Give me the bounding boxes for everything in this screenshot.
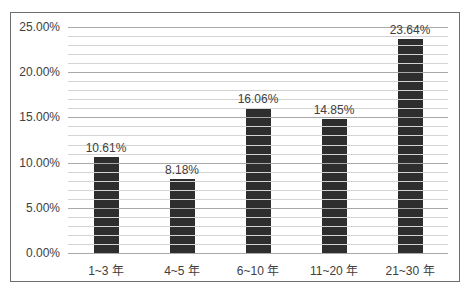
- minor-gridline: [68, 45, 448, 46]
- major-gridline: [68, 253, 448, 254]
- value-label: 8.18%: [165, 163, 199, 177]
- bar: [322, 119, 347, 253]
- minor-gridline: [68, 126, 448, 127]
- minor-gridline: [68, 244, 448, 245]
- major-gridline: [68, 72, 448, 73]
- y-tick-label: 5.00%: [14, 201, 60, 215]
- value-label: 10.61%: [86, 141, 127, 155]
- x-tick-label: 11~20 年: [310, 261, 358, 278]
- y-tick-label: 0.00%: [14, 246, 60, 260]
- major-gridline: [68, 163, 448, 164]
- minor-gridline: [68, 81, 448, 82]
- minor-gridline: [68, 226, 448, 227]
- minor-gridline: [68, 63, 448, 64]
- major-gridline: [68, 117, 448, 118]
- y-tick-label: 10.00%: [14, 156, 60, 170]
- minor-gridline: [68, 217, 448, 218]
- value-label: 16.06%: [238, 92, 279, 106]
- plot-area: 10.61%8.18%16.06%14.85%23.64%: [68, 27, 448, 253]
- y-tick-label: 25.00%: [14, 20, 60, 34]
- minor-gridline: [68, 235, 448, 236]
- x-tick-label: 21~30 年: [385, 261, 434, 278]
- minor-gridline: [68, 108, 448, 109]
- x-tick-label: 1~3 年: [88, 261, 124, 278]
- x-tick-label: 6~10 年: [237, 261, 279, 278]
- value-label: 14.85%: [314, 103, 355, 117]
- minor-gridline: [68, 199, 448, 200]
- y-tick-label: 20.00%: [14, 65, 60, 79]
- x-tick-label: 4~5 年: [164, 261, 200, 278]
- y-tick-label: 15.00%: [14, 110, 60, 124]
- minor-gridline: [68, 135, 448, 136]
- value-label: 23.64%: [390, 23, 431, 37]
- minor-gridline: [68, 190, 448, 191]
- minor-gridline: [68, 172, 448, 173]
- major-gridline: [68, 208, 448, 209]
- minor-gridline: [68, 54, 448, 55]
- minor-gridline: [68, 181, 448, 182]
